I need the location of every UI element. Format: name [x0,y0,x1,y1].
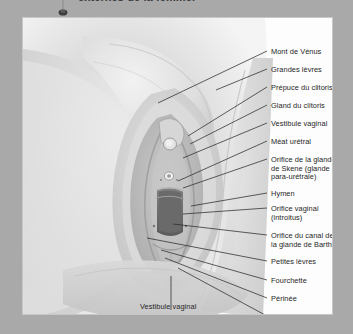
callout-label-hymen: Hymen [271,190,295,199]
illustration-body [23,18,273,315]
callout-label-prepuce-du-clitoris: Prépuce du clitoris [271,84,333,93]
caption-text: externes de la femme. [78,0,195,3]
pushpin-icon [58,0,68,18]
callout-label-meat-uretral: Méat urétral [271,138,311,147]
callout-label-orifice-bartholin: Orifice du canal de la glande de Barthol… [271,232,333,249]
caption-strip: externes de la femme. [0,0,353,14]
callout-label-petites-levres: Petites lèvres [271,258,316,267]
anatomy-figure-panel: Mont de Vénus Grandes lèvres Prépuce du … [22,17,333,315]
pushpin-glyph [58,0,68,18]
callout-label-grandes-levres: Grandes lèvres [271,66,322,75]
callout-label-fourchette: Fourchette [271,277,307,286]
callout-label-orifice-vaginal: Orifice vaginal (introitus) [271,205,319,222]
callout-label-perinee: Périnée [271,295,297,304]
callout-label-vestibule-vaginal: Vestibule vaginal [271,120,327,129]
callout-label-gland-du-clitoris: Gland du clitoris [271,102,325,111]
callout-label-mont-de-venus: Mont de Vénus [271,48,321,57]
callout-label-vestibule-vaginal-bottom: Vestibule vaginal [140,303,196,312]
callout-label-anus: Anus [271,313,288,315]
callout-label-orifice-glande-skene: Orifice de la glande de Skene (glande pa… [271,156,333,182]
